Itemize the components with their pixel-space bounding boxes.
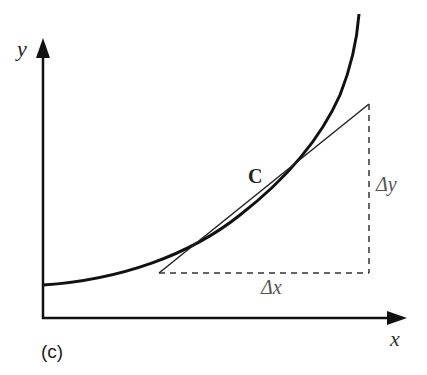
panel-label: (c) xyxy=(41,341,63,362)
x-axis-label: x xyxy=(389,326,400,351)
x-axis xyxy=(42,311,407,325)
delta-x-label: Δx xyxy=(260,276,282,298)
delta-y-label: Δy xyxy=(375,173,397,196)
tangent-line xyxy=(159,104,369,273)
x-axis-arrow-icon xyxy=(387,311,407,325)
y-axis-arrow-icon xyxy=(36,38,50,58)
y-axis xyxy=(36,38,50,319)
derivative-tangent-diagram: y x C Δy Δx (c) xyxy=(0,0,427,375)
curve-label: C xyxy=(248,165,262,187)
y-axis-label: y xyxy=(15,36,27,61)
